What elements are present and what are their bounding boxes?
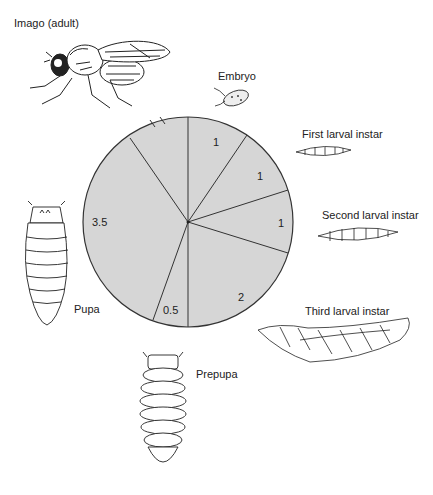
adult-fly-icon [30, 41, 170, 108]
stage-label-third-instar: Third larval instar [305, 305, 390, 317]
pupa-icon [25, 201, 68, 325]
stage-label-embryo: Embryo [218, 70, 256, 82]
stage-label-prepupa: Prepupa [196, 368, 238, 380]
slice-label-prepupa: 0.5 [163, 304, 178, 316]
second-larva-icon [318, 228, 398, 241]
prepupa-icon [140, 352, 186, 462]
stage-label-pupa: Pupa [74, 303, 101, 315]
slice-label-first-instar: 1 [257, 170, 263, 182]
first-larva-icon [296, 146, 351, 155]
slice-label-second-instar: 1 [278, 217, 284, 229]
duration-pie: 1 1 1 2 0.5 3.5 [83, 117, 293, 327]
slice-label-pupa: 3.5 [92, 216, 107, 228]
stage-label-first-instar: First larval instar [302, 128, 383, 140]
slice-label-third-instar: 2 [238, 291, 244, 303]
stage-label-second-instar: Second larval instar [322, 209, 419, 221]
stage-label-adult: Imago (adult) [14, 17, 79, 29]
slice-label-embryo: 1 [213, 136, 219, 148]
third-larva-icon [258, 318, 409, 362]
embryo-icon [214, 87, 251, 109]
life-cycle-diagram: 1 1 1 2 0.5 3.5 Imago (adult) Embryo Fir… [0, 0, 433, 495]
